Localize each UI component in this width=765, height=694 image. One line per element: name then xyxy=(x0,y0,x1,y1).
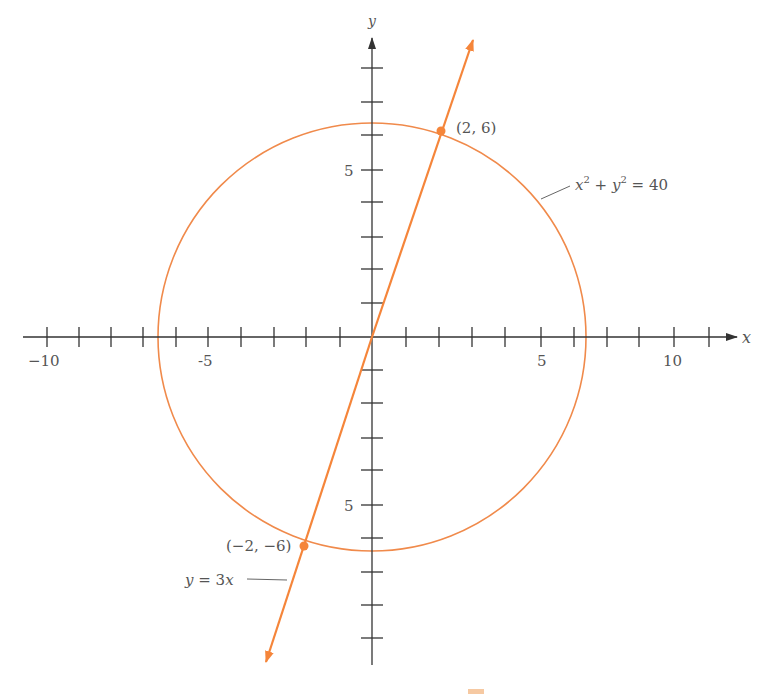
line-label-leader xyxy=(247,579,287,580)
y-tick-label-5: 5 xyxy=(344,162,354,180)
decorative-mark xyxy=(468,689,484,694)
point-label-neg2-neg6: (−2, −6) xyxy=(226,537,291,555)
point-2-6 xyxy=(437,127,446,136)
x-tick-label-neg10: −10 xyxy=(28,352,60,370)
y-axis-label: y xyxy=(367,13,377,29)
x-tick-label-neg5: -5 xyxy=(198,352,213,370)
line-y-equals-3x xyxy=(372,40,473,337)
line-equation-label: y = 3x xyxy=(184,571,234,589)
point-neg2-neg6 xyxy=(300,542,309,551)
chart-figure: y x −10 -5 5 10 5 5 (2, 6) (−2, −6) x2 +… xyxy=(0,0,765,694)
point-label-2-6: (2, 6) xyxy=(456,119,496,137)
circle-equation-label: x2 + y2 = 40 xyxy=(575,174,668,194)
circle-label-leader xyxy=(541,186,570,199)
line-y-equals-3x-lower xyxy=(266,337,372,662)
x-tick-label-5: 5 xyxy=(537,352,547,370)
y-tick-label-neg5: 5 xyxy=(344,497,354,515)
x-axis-label: x xyxy=(742,328,751,347)
x-axis xyxy=(23,327,737,347)
x-tick-label-10: 10 xyxy=(663,352,682,370)
y-axis xyxy=(361,38,383,665)
